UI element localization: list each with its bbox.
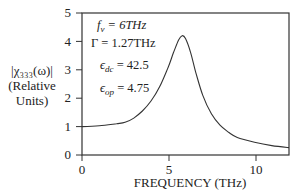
x-tick-label: 0 [79, 162, 86, 177]
annotation-fv: fv = 6THz [97, 18, 146, 34]
plot-frame [82, 13, 289, 155]
y-tick-label: 0 [65, 147, 72, 162]
y-axis-label-line3: Units) [16, 93, 49, 108]
annotation-eps-dc: ϵdc = 42.5 [100, 58, 149, 74]
annotation-gamma: Γ = 1.27THz [91, 36, 156, 50]
parameter-annotations: fv = 6THz Γ = 1.27THz ϵdc = 42.5 ϵop = 4… [91, 18, 156, 97]
x-tick-label: 10 [250, 162, 263, 177]
y-tick-label: 4 [65, 34, 72, 49]
annotation-eps-op: ϵop = 4.75 [100, 81, 149, 97]
chart-svg: 0 1 2 3 4 5 0 5 10 FREQUENCY (THz) |χ₃₃₃… [0, 0, 298, 195]
y-tick-label: 3 [65, 62, 72, 77]
y-axis-label: |χ₃₃₃(ω)| (Relative Units) [8, 63, 56, 108]
y-tick-label: 1 [65, 119, 72, 134]
y-ticks [76, 13, 82, 155]
y-tick-labels: 0 1 2 3 4 5 [65, 5, 72, 162]
y-axis-label-line1: |χ₃₃₃(ω)| [11, 63, 53, 78]
y-axis-label-line2: (Relative [8, 78, 56, 93]
y-tick-label: 2 [65, 90, 72, 105]
y-tick-label: 5 [65, 5, 72, 20]
x-ticks [82, 155, 256, 161]
x-axis-label: FREQUENCY (THz) [134, 175, 247, 190]
